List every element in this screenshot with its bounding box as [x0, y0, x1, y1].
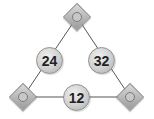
- edge-left-value: 24: [36, 47, 63, 74]
- vertex-bottom-right-icon: [125, 92, 135, 102]
- vertex-top-icon: [72, 12, 82, 22]
- edge-right-value: 32: [88, 47, 115, 74]
- vertex-bottom-left-icon: [18, 92, 28, 102]
- edge-bottom-value: 12: [63, 84, 90, 111]
